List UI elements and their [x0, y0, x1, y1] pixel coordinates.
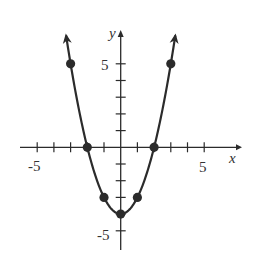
y-tick-label-neg5: -5	[97, 227, 110, 243]
data-point	[99, 193, 108, 202]
data-point	[66, 59, 75, 68]
x-axis-label: x	[228, 150, 236, 166]
axes	[20, 30, 242, 250]
data-point	[83, 143, 92, 152]
data-point	[150, 143, 159, 152]
y-axis-label: y	[107, 25, 116, 41]
x-tick-label-neg5: -5	[28, 158, 41, 174]
data-point	[166, 59, 175, 68]
x-tick-label-5: 5	[199, 159, 207, 175]
data-point	[116, 210, 125, 219]
y-tick-label-5: 5	[101, 57, 109, 73]
data-point	[133, 193, 142, 202]
parabola-chart: y x -5 5 5 -5	[0, 0, 255, 255]
